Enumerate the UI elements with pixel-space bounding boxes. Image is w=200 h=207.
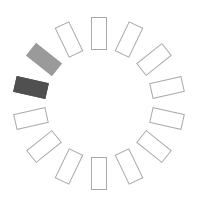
spinner-segment bbox=[136, 130, 172, 163]
spinner-segment bbox=[91, 157, 107, 190]
spinner-segment bbox=[26, 43, 62, 76]
spinner-segment bbox=[136, 43, 172, 76]
spinner-segment bbox=[13, 76, 49, 99]
spinner-segment bbox=[54, 22, 83, 59]
spinner-segment bbox=[149, 107, 185, 130]
spinner-segment bbox=[115, 148, 144, 185]
spinner-segment bbox=[26, 130, 62, 163]
spinner-segment bbox=[54, 148, 83, 185]
loading-spinner bbox=[0, 0, 200, 207]
spinner-segment bbox=[149, 76, 185, 99]
spinner-segment bbox=[91, 17, 107, 50]
spinner-segment bbox=[115, 22, 144, 59]
spinner-segment bbox=[13, 107, 49, 130]
